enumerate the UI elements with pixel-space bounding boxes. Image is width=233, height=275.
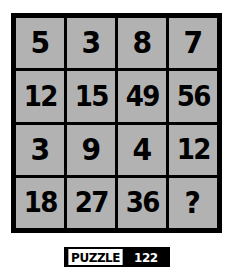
puzzle-badge: PUZZLE 122 xyxy=(64,247,170,267)
cell-value: 18 xyxy=(24,188,57,217)
unknown-value-marker: ? xyxy=(185,188,201,218)
cell-value: 4 xyxy=(133,135,151,165)
cell-value: 3 xyxy=(82,28,100,58)
puzzle-page: 5 3 8 7 12 15 49 56 xyxy=(0,0,233,275)
puzzle-grid-container: 5 3 8 7 12 15 49 56 xyxy=(11,13,222,233)
cell-value: 49 xyxy=(126,82,159,111)
grid-cell-r1c4[interactable]: 7 xyxy=(169,18,217,68)
puzzle-grid: 5 3 8 7 12 15 49 56 xyxy=(16,18,217,228)
grid-cell-r2c2[interactable]: 15 xyxy=(67,71,115,121)
grid-cell-r2c3[interactable]: 49 xyxy=(118,71,166,121)
cell-value: 56 xyxy=(177,82,210,111)
grid-cell-r2c4[interactable]: 56 xyxy=(169,71,217,121)
grid-cell-r2c1[interactable]: 12 xyxy=(16,71,64,121)
grid-cell-r4c1[interactable]: 18 xyxy=(16,178,64,228)
cell-value: 9 xyxy=(82,135,100,165)
cell-value: 8 xyxy=(133,28,151,58)
grid-cell-r3c2[interactable]: 9 xyxy=(67,125,115,175)
cell-value: 12 xyxy=(177,135,210,164)
grid-cell-r1c2[interactable]: 3 xyxy=(67,18,115,68)
grid-cell-r3c1[interactable]: 3 xyxy=(16,125,64,175)
cell-value: 3 xyxy=(31,135,49,165)
grid-cell-r4c3[interactable]: 36 xyxy=(118,178,166,228)
cell-value: 7 xyxy=(184,28,202,58)
grid-cell-r4c2[interactable]: 27 xyxy=(67,178,115,228)
cell-value: 12 xyxy=(24,82,57,111)
puzzle-badge-number: 122 xyxy=(127,249,166,265)
puzzle-badge-label: PUZZLE xyxy=(68,249,122,265)
cell-value: 5 xyxy=(31,28,49,58)
grid-cell-r3c3[interactable]: 4 xyxy=(118,125,166,175)
cell-value: 36 xyxy=(126,188,159,217)
cell-value: 27 xyxy=(75,188,108,217)
grid-cell-r1c3[interactable]: 8 xyxy=(118,18,166,68)
grid-cell-r1c1[interactable]: 5 xyxy=(16,18,64,68)
grid-cell-r4c4-unknown[interactable]: ? xyxy=(169,178,217,228)
grid-cell-r3c4[interactable]: 12 xyxy=(169,125,217,175)
cell-value: 15 xyxy=(75,82,108,111)
